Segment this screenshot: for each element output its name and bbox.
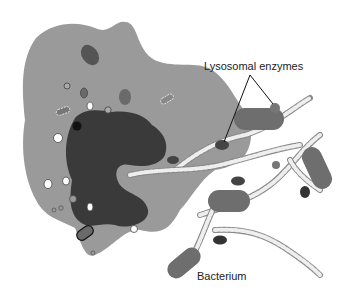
vesicle	[59, 206, 63, 210]
granule	[119, 89, 131, 105]
lysosomal-enzyme	[213, 236, 227, 245]
lysosomal-enzyme	[300, 186, 310, 198]
vesicle	[87, 102, 93, 110]
granule	[81, 88, 88, 98]
vesicle	[70, 196, 77, 203]
vesicle	[52, 208, 56, 212]
vesicle	[44, 180, 52, 189]
lysosomal-enzyme	[215, 140, 229, 150]
label-bacterium: Bacterium	[197, 270, 247, 282]
bacterium	[299, 144, 336, 192]
vesicle	[91, 251, 95, 255]
phagocytosis-diagram	[0, 0, 343, 300]
vesicle	[87, 203, 93, 211]
label-pointer	[250, 75, 273, 104]
label-lysosomal-enzymes: Lysosomal enzymes	[204, 60, 303, 72]
vesicle	[63, 177, 70, 185]
lysosomal-enzyme	[270, 103, 280, 113]
lysosomal-enzyme	[167, 156, 179, 164]
vesicle	[131, 226, 138, 233]
vesicle	[54, 134, 63, 143]
vesicle	[64, 83, 70, 89]
vesicle	[105, 107, 111, 113]
granule-black	[73, 122, 82, 131]
bacterium	[208, 190, 250, 212]
lysosomal-enzyme	[272, 161, 280, 169]
lysosomal-enzyme	[231, 177, 245, 186]
